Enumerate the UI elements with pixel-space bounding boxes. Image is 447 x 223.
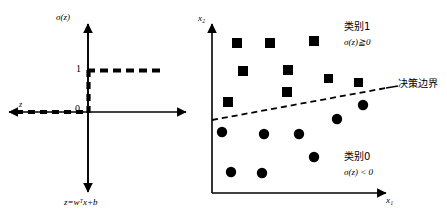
square-marker [282, 87, 292, 97]
square-marker [265, 38, 275, 48]
right-x-axis-label: x₁ [386, 196, 393, 205]
circle-marker [332, 114, 342, 124]
right-y-axis-label: x₂ [198, 14, 205, 23]
circle-marker [217, 127, 227, 137]
circle-marker [259, 129, 269, 139]
right-panel-svg [0, 0, 447, 223]
right-panel-scatter: x₂ x₁ 类别1 σ(z)≧0 类别0 σ(z) < 0 决策边界 [0, 0, 447, 223]
square-marker [223, 97, 233, 107]
class1-condition: σ(z)≧0 [344, 38, 370, 47]
square-marker [238, 66, 248, 76]
circle-marker [226, 167, 236, 177]
decision-boundary-label: 决策边界 [398, 79, 438, 89]
class1-label: 类别1 [344, 22, 370, 32]
square-marker [283, 65, 293, 75]
decision-boundary-leader [386, 86, 398, 88]
square-marker [354, 78, 363, 87]
circle-marker [294, 129, 304, 139]
class0-condition: σ(z) < 0 [344, 168, 373, 177]
circle-marker [257, 168, 267, 178]
square-marker [232, 38, 242, 48]
class0-label: 类别0 [344, 152, 370, 162]
square-marker [309, 36, 319, 46]
circle-marker [358, 100, 368, 110]
circle-marker [309, 152, 319, 162]
figure-container: σ(z) z 1 0 z=wᵀx+b [0, 0, 447, 223]
square-marker [324, 74, 333, 83]
